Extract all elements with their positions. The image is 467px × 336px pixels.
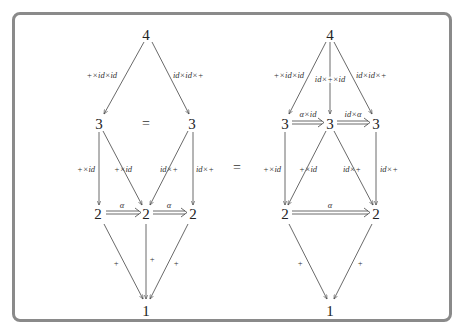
edge-label: + bbox=[357, 258, 363, 268]
edge-label: id×+ bbox=[380, 164, 398, 174]
node-2: 2 bbox=[189, 206, 197, 222]
node-3: 3 bbox=[372, 116, 380, 132]
edge-label: α×id bbox=[300, 109, 318, 119]
node-2: 2 bbox=[372, 206, 380, 222]
edge-label: + bbox=[173, 258, 179, 268]
node-4: 4 bbox=[142, 27, 150, 43]
edge-label: + bbox=[149, 254, 155, 264]
node-2: 2 bbox=[94, 206, 102, 222]
node-2: 2 bbox=[142, 206, 150, 222]
edge-label: id×id×+ bbox=[356, 70, 386, 80]
edge-right-low-left-to-bottom bbox=[289, 224, 327, 299]
edge-label: + bbox=[297, 258, 303, 268]
equals-sign: = bbox=[142, 116, 150, 131]
edge-label: + bbox=[113, 258, 119, 268]
node-3: 3 bbox=[281, 116, 289, 132]
edge-label: α bbox=[120, 200, 125, 210]
edge-left-low-left-to-bottom bbox=[104, 224, 143, 299]
edge-label: id×id×+ bbox=[173, 70, 203, 80]
equals-sign: = bbox=[233, 160, 241, 175]
edge-label: id×+×id bbox=[315, 74, 346, 84]
edge-label: +×id bbox=[263, 164, 282, 174]
edge-label: id×+ bbox=[196, 164, 214, 174]
node-3: 3 bbox=[95, 116, 103, 132]
node-3: 3 bbox=[188, 116, 196, 132]
edge-label: α bbox=[328, 200, 333, 210]
edge-label: +×id×id bbox=[274, 70, 305, 80]
node-1: 1 bbox=[142, 303, 150, 319]
edge-label: +×id bbox=[299, 164, 318, 174]
edge-label: +×id bbox=[114, 164, 133, 174]
edge-label: +×id×id bbox=[87, 70, 118, 80]
double-arrow-right-id-alpha bbox=[337, 118, 370, 127]
node-4: 4 bbox=[326, 27, 334, 43]
commutative-diagram: 4 3 = 3 2 2 2 1 +×id×id id×id×+ +×id +×i… bbox=[0, 0, 467, 336]
node-1: 1 bbox=[326, 303, 334, 319]
double-arrow-right-alpha-id bbox=[292, 118, 324, 127]
node-3: 3 bbox=[326, 116, 334, 132]
left-diagram: 4 3 = 3 2 2 2 1 +×id×id id×id×+ +×id +×i… bbox=[77, 27, 214, 319]
node-2: 2 bbox=[281, 206, 289, 222]
edge-label: id×+ bbox=[160, 164, 178, 174]
edge-label: id×α bbox=[345, 109, 362, 119]
edge-right-low-right-to-bottom bbox=[334, 224, 372, 299]
right-diagram: 4 3 3 3 2 2 1 +×id×id id×+×id id×id×+ α×… bbox=[263, 27, 398, 319]
edge-label: +×id bbox=[77, 164, 96, 174]
edge-label: id×+ bbox=[343, 164, 361, 174]
edge-label: α bbox=[167, 200, 172, 210]
edge-left-low-right-to-bottom bbox=[150, 224, 188, 299]
